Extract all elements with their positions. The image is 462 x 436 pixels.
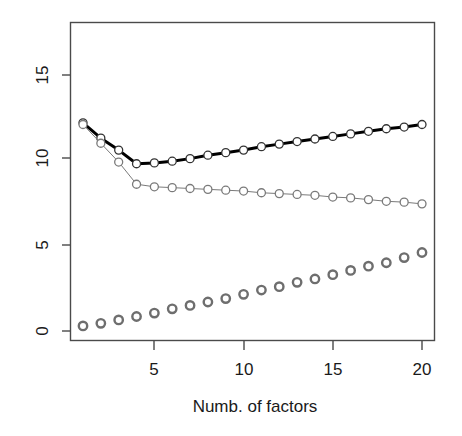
data-point xyxy=(132,312,140,320)
data-point xyxy=(293,190,301,198)
y-axis-ticks xyxy=(62,75,70,331)
data-point xyxy=(222,186,230,194)
data-point xyxy=(133,160,141,168)
data-point xyxy=(311,191,319,199)
data-point xyxy=(418,200,426,208)
data-point xyxy=(346,266,354,274)
data-point xyxy=(150,159,158,167)
data-point xyxy=(364,196,372,204)
data-point xyxy=(97,319,105,327)
data-point xyxy=(97,139,105,147)
data-point xyxy=(311,135,319,143)
data-point xyxy=(79,322,87,330)
x-tick-label-15: 15 xyxy=(324,360,343,379)
data-point xyxy=(168,157,176,165)
data-point xyxy=(400,123,408,131)
data-point xyxy=(329,132,337,140)
data-point xyxy=(222,149,230,157)
data-point xyxy=(418,248,426,256)
x-tick-label-20: 20 xyxy=(413,360,432,379)
data-point xyxy=(257,286,265,294)
data-point xyxy=(186,301,194,309)
data-point xyxy=(275,190,283,198)
data-point xyxy=(204,185,212,193)
data-point xyxy=(293,138,301,146)
data-point xyxy=(114,316,122,324)
data-point xyxy=(240,187,248,195)
data-point xyxy=(400,253,408,261)
data-point xyxy=(364,262,372,270)
plot-frame-box xyxy=(71,23,435,341)
data-point xyxy=(186,184,194,192)
data-point xyxy=(418,120,426,128)
data-point xyxy=(311,275,319,283)
data-point xyxy=(240,146,248,154)
data-point xyxy=(115,158,123,166)
data-point xyxy=(222,294,230,302)
data-point xyxy=(204,298,212,306)
data-point xyxy=(79,120,87,128)
data-point xyxy=(347,130,355,138)
data-point xyxy=(347,194,355,202)
data-point xyxy=(133,180,141,188)
data-point xyxy=(382,125,390,133)
plot-area: 0 5 10 15 5 10 15 20 Numb. of factors xyxy=(0,0,462,436)
series-middle-gray-series xyxy=(79,120,426,207)
data-point xyxy=(275,282,283,290)
data-point xyxy=(382,259,390,267)
data-point xyxy=(150,183,158,191)
y-tick-label-15: 15 xyxy=(33,66,52,85)
x-tick-label-5: 5 xyxy=(149,360,158,379)
data-point xyxy=(239,290,247,298)
y-tick-label-5: 5 xyxy=(33,240,52,249)
data-point xyxy=(168,184,176,192)
data-point xyxy=(329,270,337,278)
y-tick-label-0: 0 xyxy=(33,326,52,335)
data-point xyxy=(275,140,283,148)
x-axis-title: Numb. of factors xyxy=(193,397,318,416)
data-point xyxy=(293,278,301,286)
data-point xyxy=(257,189,265,197)
data-point xyxy=(400,198,408,206)
y-tick-label-10: 10 xyxy=(33,149,52,168)
x-tick-label-10: 10 xyxy=(235,360,254,379)
chart-figure: 0 5 10 15 5 10 15 20 Numb. of factors xyxy=(0,0,462,436)
data-point xyxy=(204,151,212,159)
data-point xyxy=(329,193,337,201)
series-upper-black-series xyxy=(79,119,426,168)
series-lower-gray-points-series xyxy=(79,248,426,330)
x-axis-ticks xyxy=(154,341,422,350)
data-point xyxy=(382,197,390,205)
data-point xyxy=(186,155,194,163)
data-point xyxy=(115,146,123,154)
data-point xyxy=(168,305,176,313)
data-point xyxy=(150,309,158,317)
series-layer xyxy=(79,119,426,330)
data-point xyxy=(257,143,265,151)
data-point xyxy=(364,127,372,135)
